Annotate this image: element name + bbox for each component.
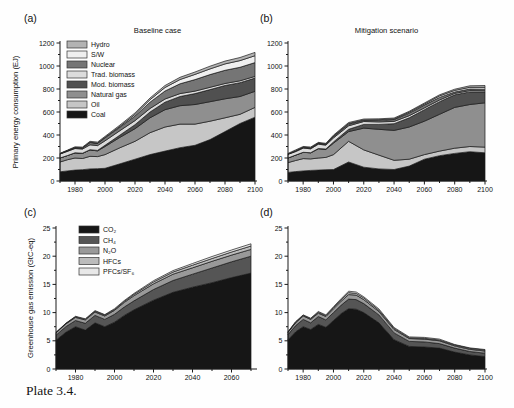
x-tick-label: 2060	[417, 186, 433, 193]
legend-label: Trad. biomass	[91, 71, 136, 78]
chart-c-y-axis-label: Greenhouse gas emission (GtC-eq)	[26, 238, 35, 358]
chart-d: 19802000202020402060208021000510152025	[275, 225, 493, 382]
legend-swatch	[67, 41, 87, 48]
x-tick-label: 2020	[146, 374, 162, 381]
legend-swatch	[67, 111, 87, 118]
x-tick-label: 2100	[477, 374, 493, 381]
legend-label: Hydro	[91, 41, 110, 49]
y-tick-label: 400	[43, 132, 55, 139]
y-tick-label: 10	[43, 309, 51, 316]
y-tick-label: 0	[47, 366, 51, 373]
x-tick-label: 1980	[67, 186, 83, 193]
x-tick-label: 2000	[326, 374, 342, 381]
legend-label: Natural gas	[91, 91, 127, 99]
x-tick-label: 1980	[295, 186, 311, 193]
legend-label: CO₂	[103, 226, 117, 233]
x-tick-label: 2100	[477, 186, 493, 193]
y-tick-label: 1000	[39, 63, 55, 70]
legend-swatch	[67, 81, 87, 88]
legend-swatch	[67, 101, 87, 108]
y-tick-label: 0	[51, 178, 55, 185]
y-tick-label: 25	[43, 225, 51, 232]
y-tick-label: 600	[271, 109, 283, 116]
x-tick-label: 2000	[326, 186, 342, 193]
x-tick-label: 2020	[356, 186, 372, 193]
legend-swatch	[67, 91, 87, 98]
x-tick-label: 2040	[386, 374, 402, 381]
x-tick-label: 2060	[224, 374, 240, 381]
legend-label: Coal	[91, 111, 106, 118]
y-tick-label: 200	[271, 155, 283, 162]
legend-swatch	[67, 61, 87, 68]
legend-label: N₂O	[103, 247, 117, 254]
chart-b: 1980200020202040206020802100020040060080…	[267, 40, 493, 194]
panel-letter-a: (a)	[24, 12, 37, 24]
y-tick-label: 200	[43, 155, 55, 162]
y-tick-label: 20	[43, 253, 51, 260]
legend-a: HydroS/WNuclearTrad. biomassMod. biomass…	[67, 41, 136, 118]
x-tick-label: 2040	[157, 186, 173, 193]
y-tick-label: 5	[47, 337, 51, 344]
legend-c: CO₂CH₄N₂OHFCsPFCs/SF₆	[79, 226, 134, 275]
y-tick-label: 800	[271, 86, 283, 93]
y-tick-label: 0	[279, 366, 283, 373]
y-tick-label: 25	[275, 225, 283, 232]
legend-label: PFCs/SF₆	[103, 268, 134, 275]
figure-plate-3-4: 1980200020202040206020802100020040060080…	[0, 0, 514, 408]
y-tick-label: 1200	[267, 40, 283, 47]
x-tick-label: 2040	[386, 186, 402, 193]
charts-canvas: 1980200020202040206020802100020040060080…	[0, 0, 514, 408]
x-tick-label: 2080	[217, 186, 233, 193]
x-tick-label: 2000	[107, 374, 123, 381]
legend-swatch	[79, 268, 99, 275]
chart-a: 1980200020202040206020802100020040060080…	[39, 40, 263, 194]
y-tick-label: 15	[43, 281, 51, 288]
x-tick-label: 1980	[295, 374, 311, 381]
legend-label: HFCs	[103, 258, 121, 265]
panel-letter-c: (c)	[24, 206, 36, 218]
y-tick-label: 15	[275, 281, 283, 288]
y-tick-label: 400	[271, 132, 283, 139]
legend-swatch	[79, 258, 99, 265]
x-tick-label: 1980	[68, 374, 84, 381]
y-tick-label: 5	[279, 337, 283, 344]
chart-a-title: Baseline case	[60, 26, 255, 35]
chart-c: 198020002020204020600510152025CO₂CH₄N₂OH…	[43, 225, 257, 382]
legend-label: Oil	[91, 101, 100, 108]
legend-label: CH₄	[103, 237, 116, 244]
y-tick-label: 600	[43, 109, 55, 116]
chart-b-title: Mitigation scenario	[288, 26, 485, 35]
y-tick-label: 1200	[39, 40, 55, 47]
legend-swatch	[67, 51, 87, 58]
y-tick-label: 800	[43, 86, 55, 93]
y-tick-label: 20	[275, 253, 283, 260]
y-tick-label: 10	[275, 309, 283, 316]
y-tick-label: 1000	[267, 63, 283, 70]
legend-swatch	[79, 237, 99, 244]
legend-label: S/W	[91, 51, 105, 58]
x-tick-label: 2080	[447, 374, 463, 381]
legend-swatch	[79, 226, 99, 233]
x-tick-label: 2100	[247, 186, 263, 193]
x-tick-label: 2040	[185, 374, 201, 381]
y-tick-label: 0	[279, 178, 283, 185]
chart-a-y-axis-label: Primary energy consumption (EJ)	[11, 56, 20, 169]
legend-label: Nuclear	[91, 61, 116, 68]
panel-letter-b: (b)	[260, 12, 273, 24]
x-tick-label: 2020	[127, 186, 143, 193]
legend-label: Mod. biomass	[91, 81, 135, 88]
x-tick-label: 2080	[447, 186, 463, 193]
x-tick-label: 2000	[97, 186, 113, 193]
x-tick-label: 2060	[187, 186, 203, 193]
panel-letter-d: (d)	[260, 206, 273, 218]
x-tick-label: 2060	[417, 374, 433, 381]
legend-swatch	[79, 247, 99, 254]
plate-caption: Plate 3.4.	[26, 383, 77, 399]
x-tick-label: 2020	[356, 374, 372, 381]
legend-swatch	[67, 71, 87, 78]
